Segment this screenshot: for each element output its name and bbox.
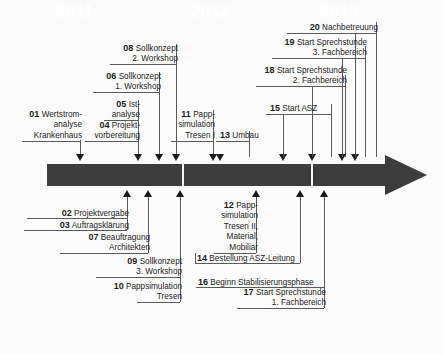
event-label-05: 05 Ist- analyse — [98, 99, 142, 121]
event-number-10: 10 — [114, 281, 124, 291]
event-text-06: Sollkonzept 1. Workshop — [115, 72, 161, 91]
event-label-09: 09 Sollkonzept 3. Workshop — [96, 256, 184, 278]
marker-down-06 — [155, 154, 163, 161]
marker-up-07 — [144, 190, 152, 197]
event-number-04: 04 — [99, 120, 109, 130]
event-label-12: 12 Papp- simulation Tresen II, Material,… — [214, 200, 260, 253]
connector-18 — [345, 75, 346, 157]
connector-15-drop — [283, 114, 284, 157]
marker-up-12 — [252, 190, 260, 197]
event-text-20: Nachbetreuung — [322, 23, 378, 32]
event-label-01: 01 Wertstrom- analyse Krankenhaus — [12, 109, 84, 141]
event-label-08: 08 Sollkonzept 2. Workshop — [103, 43, 180, 65]
event-number-12: 12 — [224, 200, 234, 210]
marker-down-13 — [216, 154, 224, 161]
event-number-17: 17 — [244, 287, 254, 297]
event-text-16: Beginn Stabilisierungsphase — [210, 278, 313, 287]
event-text-08: Sollkonzept 2. Workshop — [132, 44, 178, 63]
event-label-18: 18 Start Sprechstunde 2. Fachbereich — [248, 65, 349, 87]
year-divider-2012 — [182, 164, 184, 186]
event-label-02: 02 Projektvergabe — [27, 208, 131, 219]
event-text-07: Beauftragung Architekten — [101, 233, 150, 252]
event-number-20: 20 — [310, 22, 320, 32]
timeline-arrowhead-icon — [385, 155, 427, 195]
event-text-10: Pappsimulation Tresen — [126, 282, 182, 301]
event-number-18: 18 — [265, 65, 275, 75]
event-label-15: 15 Start ASZ — [268, 103, 334, 114]
marker-up-02 — [123, 190, 131, 197]
event-number-14: 14 — [197, 253, 207, 263]
connector-19 — [365, 46, 366, 157]
event-label-03: 03 Auftragsklärung — [24, 220, 131, 231]
event-label-19: 19 Start Sprechstunde 3. Fachbereich — [264, 37, 369, 59]
event-number-05: 05 — [116, 99, 126, 109]
event-text-01: Wertstrom- analyse Krankenhaus — [34, 110, 82, 140]
event-text-18: Start Sprechstunde 2. Fachbereich — [277, 66, 347, 85]
event-label-14: 14 Bestellung ASZ-Leitung — [195, 253, 305, 264]
year-label-2012: 2012 — [191, 2, 230, 22]
marker-up-14 — [296, 190, 304, 197]
timeline-diagram: 2011 2012 2013 01 Wertstrom- — [0, 0, 444, 354]
event-text-17: Start Sprechstunde 1. Fachbereich — [256, 288, 326, 307]
event-text-15: Start ASZ — [282, 104, 317, 113]
marker-down-01 — [76, 154, 84, 161]
event-text-14: Bestellung ASZ-Leitung — [209, 254, 295, 263]
timeline-bar — [47, 164, 385, 186]
marker-down-08 — [172, 154, 180, 161]
connector-20 — [376, 22, 377, 157]
marker-up-16 — [320, 190, 328, 197]
event-text-09: Sollkonzept 3. Workshop — [136, 257, 182, 276]
event-number-13: 13 — [220, 130, 230, 140]
connector-18-drop — [312, 86, 313, 157]
event-label-04: 04 Projekt- vorbereitung — [78, 120, 142, 142]
marker-down-04 — [134, 154, 142, 161]
event-text-13: Umbau — [232, 131, 258, 140]
event-number-08: 08 — [123, 43, 133, 53]
event-text-19: Start Sprechstunde 3. Fachbereich — [297, 38, 367, 57]
year-label-2013: 2013 — [320, 2, 359, 22]
event-number-06: 06 — [106, 71, 116, 81]
event-label-10: 10 Pappsimulation Tresen — [92, 281, 184, 303]
event-number-03: 03 — [60, 220, 70, 230]
event-label-06: 06 Sollkonzept 1. Workshop — [86, 71, 163, 93]
event-text-02: Projektvergabe — [74, 209, 129, 218]
event-label-17: 17 Start Sprechstunde 1. Fachbereich — [237, 287, 328, 309]
event-number-07: 07 — [89, 232, 99, 242]
event-number-01: 01 — [29, 109, 39, 119]
year-label-2011: 2011 — [56, 2, 94, 22]
event-number-16: 16 — [198, 277, 208, 287]
event-number-19: 19 — [285, 37, 295, 47]
year-divider-2013 — [311, 164, 313, 186]
event-text-03: Auftragsklärung — [72, 221, 129, 230]
event-label-07: 07 Beauftragung Architekten — [60, 232, 152, 254]
event-label-11: 11 Papp- simulation Tresen I — [164, 109, 217, 141]
event-label-20: 20 Nachbetreuung — [280, 22, 380, 33]
marker-up-09 — [176, 190, 184, 197]
event-number-09: 09 — [127, 256, 137, 266]
event-label-13: 13 Umbau — [218, 130, 267, 141]
event-number-11: 11 — [181, 109, 191, 119]
event-number-15: 15 — [270, 103, 280, 113]
event-number-02: 02 — [62, 208, 72, 218]
